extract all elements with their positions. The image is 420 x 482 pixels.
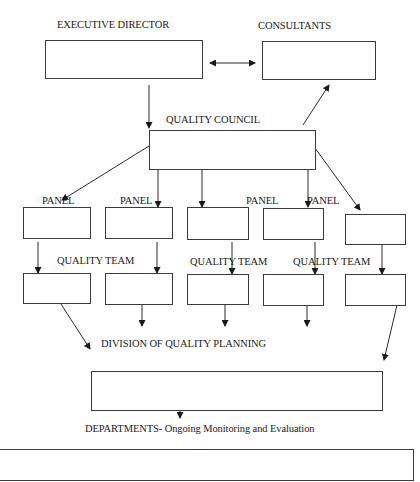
quality-team-label-3: QUALITY TEAM	[293, 256, 370, 268]
panel-box-1	[23, 207, 91, 239]
team-box-1	[23, 273, 91, 304]
edge-council-panel-1	[62, 146, 149, 200]
consultants-label: CONSULTANTS	[258, 20, 331, 32]
edge-council-consultants	[303, 85, 329, 125]
panel-label-3: PANEL	[246, 195, 278, 207]
team-box-4	[263, 274, 324, 306]
edge-team-division-5	[384, 305, 397, 360]
division-box	[91, 371, 383, 411]
panel-box-3	[187, 207, 249, 240]
panel-label-1: PANEL	[42, 195, 74, 207]
team-box-2	[105, 273, 173, 305]
division-label: DIVISION OF QUALITY PLANNING	[101, 338, 266, 350]
consultants-box	[262, 41, 376, 80]
panel-label-2: PANEL	[120, 195, 152, 207]
panel-box-4	[263, 208, 324, 240]
quality-team-label-2: QUALITY TEAM	[190, 256, 267, 268]
quality-council-box	[149, 130, 316, 170]
executive-director-label: EXECUTIVE DIRECTOR	[57, 19, 169, 31]
quality-team-label-1: QUALITY TEAM	[57, 255, 134, 267]
departments-label: DEPARTMENTS- Ongoing Monitoring and Eval…	[85, 423, 314, 435]
quality-council-label: QUALITY COUNCIL	[166, 114, 260, 126]
edge-team-division-1	[61, 304, 90, 349]
executive-director-box	[45, 40, 203, 79]
panel-label-4: PANEL	[307, 195, 339, 207]
team-box-5	[345, 274, 406, 306]
departments-box	[0, 449, 414, 481]
panel-box-5	[345, 214, 406, 245]
team-box-3	[187, 274, 249, 305]
org-chart-canvas: EXECUTIVE DIRECTOR CONSULTANTS QUALITY C…	[0, 0, 420, 482]
panel-box-2	[105, 207, 173, 239]
